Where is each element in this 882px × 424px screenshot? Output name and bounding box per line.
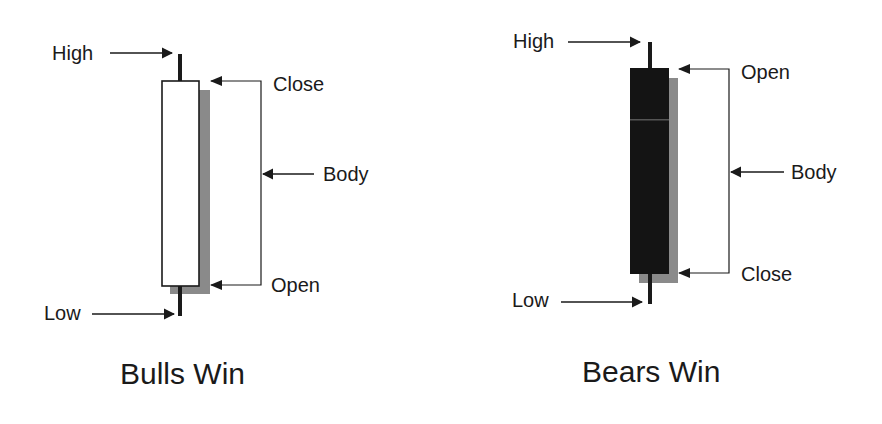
bear-close-label: Close [741, 263, 792, 285]
bull-low-label: Low [44, 302, 81, 324]
bear-caption: Bears Win [582, 355, 720, 388]
bull-close-arrowhead-icon [210, 76, 222, 86]
bull-upper-wick [178, 54, 182, 82]
bear-low-label: Low [512, 289, 549, 311]
bear-candle-group: High Low Open Close Body Bears Win [512, 30, 837, 388]
bear-body-label: Body [791, 161, 837, 183]
candlestick-diagram: High Low Close Open Body Bulls Win High … [0, 0, 882, 424]
bull-body-label: Body [323, 163, 369, 185]
bull-lower-wick [178, 286, 182, 316]
bull-body-bracket [211, 81, 261, 285]
bull-high-label: High [52, 42, 93, 64]
bear-upper-wick [648, 42, 652, 70]
bull-close-label: Close [273, 73, 324, 95]
bull-candle-body [162, 81, 199, 286]
bear-open-arrowhead-icon [678, 64, 690, 74]
bear-body-highlight [630, 119, 669, 121]
bear-candle-body [630, 68, 669, 274]
bear-open-label: Open [741, 61, 790, 83]
bull-open-label: Open [271, 274, 320, 296]
bull-caption: Bulls Win [120, 357, 245, 390]
bear-high-label: High [513, 30, 554, 52]
bull-candle-group: High Low Close Open Body Bulls Win [44, 42, 369, 390]
bear-close-arrowhead-icon [678, 268, 690, 278]
bear-body-bracket [679, 69, 729, 273]
bull-open-arrowhead-icon [210, 280, 222, 290]
bear-lower-wick [648, 274, 652, 304]
